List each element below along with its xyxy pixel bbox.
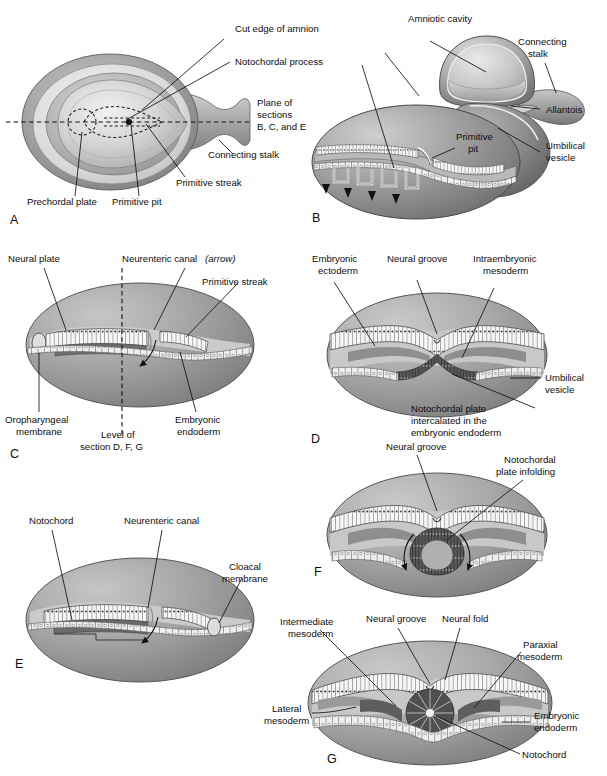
label-paraxial-mesoderm-1: Paraxial bbox=[523, 639, 558, 650]
label-paraxial-mesoderm-2: mesoderm bbox=[517, 651, 562, 662]
label-umbilical-vesicle-b2: vesicle bbox=[546, 152, 575, 163]
label-notochordal-plate-d1: Notochordal plate bbox=[411, 403, 486, 414]
notochord-rosette-core bbox=[425, 708, 434, 717]
label-embryonic-endoderm-c1: Embryonic bbox=[175, 414, 221, 425]
label-primitive-pit-a: Primitive pit bbox=[112, 196, 162, 207]
panel-letter-e: E bbox=[15, 657, 23, 671]
label-connecting-stalk-a: Connecting stalk bbox=[208, 149, 279, 160]
label-notochordal-plate-d2: intercalated in the bbox=[411, 415, 487, 426]
embryology-figure: Cut edge of amnion Notochordal process P… bbox=[0, 0, 607, 776]
label-neural-fold: Neural fold bbox=[442, 613, 488, 624]
label-connecting-stalk-b2: stalk bbox=[528, 48, 548, 59]
label-neural-plate: Neural plate bbox=[8, 253, 60, 264]
label-connecting-stalk-b1: Connecting bbox=[518, 36, 567, 47]
label-neural-groove-f: Neural groove bbox=[386, 441, 446, 452]
panel-letter-f: F bbox=[314, 565, 322, 579]
label-neurenteric-arrow-note: (arrow) bbox=[205, 253, 235, 264]
label-plane-of-sections-line3: B, C, and E bbox=[257, 121, 306, 132]
label-neurenteric-canal-c: Neurenteric canal bbox=[122, 253, 197, 264]
label-amniotic-cavity: Amniotic cavity bbox=[408, 13, 472, 24]
label-primitive-pit-b2: pit bbox=[468, 143, 478, 154]
label-oropharyngeal-membrane-2: membrane bbox=[16, 426, 62, 437]
panel-letter-d: D bbox=[311, 432, 320, 446]
label-notochord-e: Notochord bbox=[29, 515, 73, 526]
label-umbilical-vesicle-d2: vesicle bbox=[545, 384, 574, 395]
label-notochord-g: Notochord bbox=[522, 749, 566, 760]
label-embryonic-ectoderm-d1: Embryonic bbox=[312, 253, 358, 264]
label-embryonic-endoderm-g2: endoderm bbox=[534, 722, 577, 733]
label-plane-of-sections-line2: sections bbox=[257, 109, 292, 120]
label-embryonic-endoderm-c2: endoderm bbox=[177, 426, 220, 437]
label-notochordal-infold-2: plate infolding bbox=[496, 466, 555, 477]
label-plane-of-sections-line1: Plane of bbox=[257, 97, 293, 108]
label-level-of-section-1: Level of bbox=[101, 429, 135, 440]
label-intraembryonic-mesoderm-2: mesoderm bbox=[483, 265, 528, 276]
label-embryonic-endoderm-g1: Embryonic bbox=[534, 710, 580, 721]
label-primitive-streak-c: Primitive streak bbox=[202, 276, 268, 287]
label-allantois: Allantois bbox=[546, 104, 582, 115]
label-embryonic-ectoderm-d2: ectoderm bbox=[318, 265, 358, 276]
label-neural-groove-g: Neural groove bbox=[366, 613, 426, 624]
label-umbilical-vesicle-d1: Umbilical bbox=[545, 372, 584, 383]
label-umbilical-vesicle-b1: Umbilical bbox=[546, 140, 585, 151]
label-neural-groove-d: Neural groove bbox=[387, 253, 447, 264]
label-notochordal-infold-1: Notochordal bbox=[504, 454, 556, 465]
label-neurenteric-canal-e: Neurenteric canal bbox=[124, 515, 199, 526]
label-notochordal-process: Notochordal process bbox=[235, 56, 323, 67]
label-lateral-mesoderm-1: Lateral bbox=[272, 703, 301, 714]
label-primitive-streak-a: Primitive streak bbox=[176, 177, 242, 188]
label-cloacal-membrane-1: Cloacal bbox=[229, 561, 261, 572]
panel-letter-a: A bbox=[10, 213, 19, 227]
notochordal-lumen-f bbox=[421, 540, 453, 570]
panel-letter-g: G bbox=[327, 752, 337, 766]
label-intraembryonic-mesoderm-1: Intraembryonic bbox=[473, 253, 537, 264]
label-prechordal-plate: Prechordal plate bbox=[27, 196, 97, 207]
label-cloacal-membrane-2: membrane bbox=[222, 573, 268, 584]
panel-letter-b: B bbox=[312, 211, 320, 225]
label-cut-edge-of-amnion: Cut edge of amnion bbox=[235, 23, 319, 34]
label-notochordal-plate-d3: embryonic endoderm bbox=[411, 427, 501, 438]
label-intermediate-mesoderm-1: Intermediate bbox=[280, 616, 333, 627]
label-primitive-pit-b1: Primitive bbox=[456, 131, 493, 142]
label-level-of-section-2: section D, F, G bbox=[80, 441, 143, 452]
label-intermediate-mesoderm-2: mesoderm bbox=[288, 628, 333, 639]
panel-letter-c: C bbox=[10, 447, 19, 461]
label-lateral-mesoderm-2: mesoderm bbox=[264, 715, 309, 726]
label-oropharyngeal-membrane-1: Oropharyngeal bbox=[5, 414, 68, 425]
cloacal-membrane-shape bbox=[208, 618, 221, 636]
